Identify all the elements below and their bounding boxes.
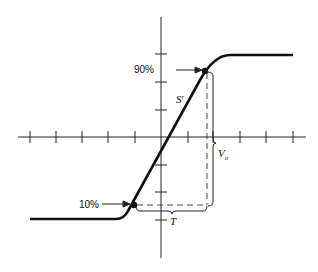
slew-rate-diagram: 90% 10% Sr Vo T	[0, 0, 318, 272]
axes	[18, 17, 306, 258]
t-brace	[136, 206, 207, 214]
label-90-percent: 90%	[134, 64, 154, 75]
label-slope: Sr	[176, 93, 185, 105]
dashed-guides	[137, 73, 207, 205]
label-t: T	[170, 215, 177, 227]
vo-brace	[208, 72, 216, 206]
arrow-10-head	[123, 201, 130, 207]
label-vo: Vo	[218, 147, 229, 162]
label-10-percent: 10%	[79, 199, 99, 210]
arrow-90-head	[195, 67, 202, 73]
point-10-percent	[131, 202, 137, 208]
point-90-percent	[202, 68, 208, 74]
